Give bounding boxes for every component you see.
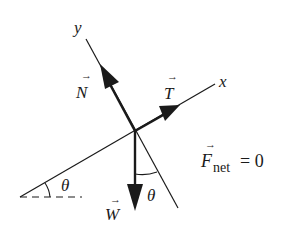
- free-body-diagram: y x → N → T → W θ θ → F net = 0: [0, 0, 292, 230]
- tension-force-shaft: [135, 114, 165, 131]
- vector-arrow-icon: →: [110, 193, 121, 205]
- equation-rhs: = 0: [240, 151, 264, 171]
- x-axis-label: x: [218, 72, 227, 91]
- tension-force-arrowhead: [159, 105, 180, 121]
- vector-arrow-icon: →: [81, 69, 92, 81]
- weight-force-label: W: [105, 205, 121, 224]
- normal-force-arrowhead: [100, 64, 119, 89]
- equation-subscript: net: [213, 160, 230, 175]
- vector-arrow-icon: →: [167, 70, 178, 82]
- y-axis-label: y: [72, 18, 82, 37]
- incline-angle-arc: [45, 183, 50, 197]
- weight-angle-arc: [135, 172, 157, 175]
- incline-angle-label: θ: [61, 176, 69, 195]
- tension-force-label: T: [164, 84, 175, 103]
- equation-symbol: F: [200, 151, 213, 171]
- weight-angle-label: θ: [147, 186, 155, 205]
- vector-arrow-icon: →: [205, 138, 216, 150]
- weight-force-arrowhead: [127, 184, 143, 211]
- normal-force-label: N: [75, 83, 89, 102]
